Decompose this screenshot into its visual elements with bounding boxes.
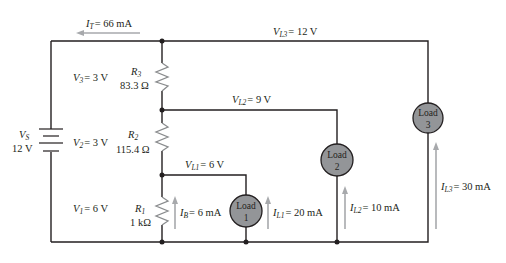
r3-name: R3 <box>130 66 141 79</box>
r2-value: 115.4 Ω <box>116 144 150 155</box>
bleeder-current-label: IB= 6 mA <box>179 207 222 220</box>
load1-current-label: IL1= 20 mA <box>272 207 323 220</box>
r1-value: 1 kΩ <box>130 217 151 228</box>
r2-name: R2 <box>127 129 138 142</box>
load-2-label: Load <box>327 150 347 160</box>
r1-name: R1 <box>134 203 145 216</box>
junction-dot <box>160 240 165 245</box>
load-3: Load 3 <box>413 103 443 133</box>
battery-icon <box>39 129 63 151</box>
v3-label: V3= 3 V <box>73 72 108 85</box>
resistor-r2-icon <box>156 123 168 151</box>
load2-wire <box>162 110 337 144</box>
load-2-number: 2 <box>335 162 340 172</box>
junction-dot <box>160 39 165 44</box>
load2-current-label: IL2= 10 mA <box>349 202 400 215</box>
load1-wire <box>162 175 246 195</box>
junction-dot <box>244 240 249 245</box>
vl1-label: VL1= 6 V <box>185 159 225 172</box>
vl2-label: VL2= 9 V <box>232 94 272 107</box>
source-label: VS <box>19 129 29 142</box>
load-3-number: 3 <box>426 120 431 130</box>
load-1-label: Load <box>236 201 256 211</box>
load3-current-label: IL3= 30 mA <box>440 181 491 194</box>
load-2: Load 2 <box>321 144 353 176</box>
load-1: Load 1 <box>230 195 262 227</box>
r3-value: 83.3 Ω <box>120 80 149 91</box>
resistor-r3-icon <box>156 63 168 91</box>
junction-dot <box>160 108 165 113</box>
circuit-diagram: VS 12 V R3 83.3 Ω V3= 3 V R2 115.4 Ω V2=… <box>0 0 506 263</box>
junction-dot <box>160 173 165 178</box>
resistor-r1-icon <box>156 197 168 225</box>
vl3-label: VL3= 12 V <box>273 26 318 39</box>
source-value: 12 V <box>12 143 33 154</box>
resistors <box>156 63 168 225</box>
v1-label: V1= 6 V <box>73 203 108 216</box>
junction-dot <box>335 240 340 245</box>
v2-label: V2= 3 V <box>73 137 108 150</box>
load-3-label: Load <box>418 108 438 118</box>
load-1-number: 1 <box>244 213 249 223</box>
total-current-label: IT= 66 mA <box>85 18 133 31</box>
